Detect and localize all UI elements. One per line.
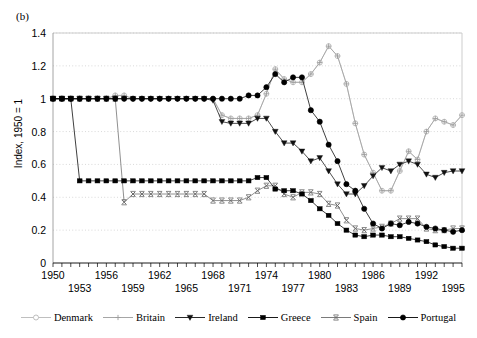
open-circle-icon	[21, 313, 51, 322]
legend-item-denmark[interactable]: Denmark	[21, 312, 93, 323]
x-tick-label: 1950	[41, 269, 65, 281]
y-tick-label: 1.4	[31, 27, 46, 39]
chart-legend: DenmarkBritainIrelandGreeceSpainPortugal	[0, 312, 477, 323]
y-tick-label: 0.8	[31, 126, 46, 138]
y-tick-label: 1.2	[31, 60, 46, 72]
x-tick-label: 1962	[148, 269, 172, 281]
x-tick-label: 1971	[228, 282, 252, 294]
figure-panel-b: (b) Index, 1950 = 1 00.20.40.60.811.21.4…	[0, 0, 477, 338]
y-tick-label: 1	[40, 93, 46, 105]
gridlines	[53, 33, 462, 230]
x-tick-label: 1992	[415, 269, 439, 281]
x-tick-label: 1986	[361, 269, 385, 281]
x-tick-label: 1959	[121, 282, 145, 294]
plus-icon	[103, 313, 133, 322]
y-tick-label: 0.2	[31, 224, 46, 236]
axis-ticks	[53, 263, 462, 267]
legend-label: Britain	[136, 312, 165, 323]
legend-label: Ireland	[208, 312, 238, 323]
legend-item-spain[interactable]: Spain	[321, 312, 378, 323]
legend-item-portugal[interactable]: Portugal	[388, 312, 457, 323]
x-tick-label: 1974	[255, 269, 279, 281]
y-tick-labels: 00.20.40.60.811.21.4	[31, 27, 46, 269]
y-tick-label: 0.6	[31, 158, 46, 170]
x-tick-label: 1968	[201, 269, 225, 281]
x-tick-label: 1953	[68, 282, 92, 294]
y-tick-label: 0	[40, 257, 46, 269]
x-tick-labels: 1950195619621968197419801986199219531959…	[41, 269, 465, 294]
x-tick-label: 1980	[308, 269, 332, 281]
x-tick-label: 1965	[175, 282, 199, 294]
x-tick-label: 1995	[441, 282, 465, 294]
legend-label: Spain	[354, 312, 378, 323]
triangle-down-icon	[175, 313, 205, 322]
y-tick-label: 0.4	[31, 191, 46, 203]
legend-label: Portugal	[421, 312, 457, 323]
line-chart: 00.20.40.60.811.21.4 1950195619621968197…	[0, 0, 477, 312]
series-ireland	[50, 96, 465, 196]
legend-label: Denmark	[54, 312, 93, 323]
x-mark-icon	[321, 313, 351, 322]
x-tick-label: 1989	[388, 282, 412, 294]
legend-item-greece[interactable]: Greece	[248, 312, 311, 323]
legend-label: Greece	[281, 312, 311, 323]
data-series-group	[50, 44, 465, 251]
legend-item-britain[interactable]: Britain	[103, 312, 165, 323]
x-tick-label: 1977	[281, 282, 305, 294]
legend-item-ireland[interactable]: Ireland	[175, 312, 238, 323]
plot-frame	[53, 33, 462, 263]
square-icon	[248, 313, 278, 322]
x-tick-label: 1983	[335, 282, 359, 294]
x-tick-label: 1956	[95, 269, 119, 281]
filled-circle-icon	[388, 313, 418, 322]
